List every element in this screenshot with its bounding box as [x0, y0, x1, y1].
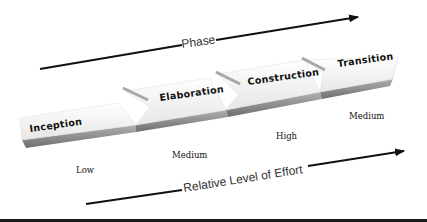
effort-label-construction: High	[276, 131, 298, 141]
effort-arrow-label: Relative Level of Effort	[182, 162, 304, 195]
phase-effort-diagram: Phase Inception Elaboration Construction…	[0, 0, 427, 222]
bottom-border	[0, 219, 427, 222]
effort-label-transition: Medium	[349, 111, 384, 121]
effort-label-inception: Low	[76, 165, 95, 175]
phase-arrow-label: Phase	[180, 32, 216, 51]
effort-arrow: Relative Level of Effort	[86, 151, 404, 204]
chevron-strip: Inception Elaboration Construction Trans…	[20, 50, 398, 148]
effort-label-elaboration: Medium	[172, 150, 207, 160]
